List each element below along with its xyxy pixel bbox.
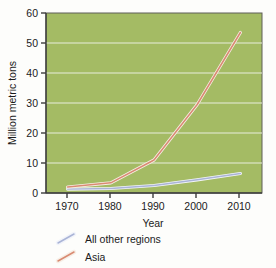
x-tick-label-1990: 1990 [141, 200, 165, 212]
y-tick-label-30: 30 [26, 97, 38, 109]
legend-swatch-asia [58, 252, 74, 261]
legend-entry-all-other-regions[interactable]: All other regions [58, 233, 161, 245]
x-tick-label-2010: 2010 [227, 200, 251, 212]
y-axis-ticks [41, 13, 46, 193]
y-tick-label-60: 60 [26, 7, 38, 19]
x-axis-title: Year [142, 217, 164, 229]
x-tick-label-1980: 1980 [98, 200, 122, 212]
line-chart: 60 50 40 30 20 10 0 1970 1980 1990 2000 … [0, 0, 276, 268]
x-tick-label-1970: 1970 [55, 200, 79, 212]
y-tick-label-20: 20 [26, 127, 38, 139]
legend-label-asia: Asia [85, 251, 106, 263]
legend-entry-asia[interactable]: Asia [58, 251, 106, 263]
legend-swatch-all-other-regions [58, 234, 74, 243]
legend-label-all-other-regions: All other regions [85, 233, 161, 245]
x-tick-label-2000: 2000 [184, 200, 208, 212]
y-tick-label-50: 50 [26, 37, 38, 49]
y-tick-label-0: 0 [32, 187, 38, 199]
chart-figure: 60 50 40 30 20 10 0 1970 1980 1990 2000 … [0, 0, 276, 268]
y-axis-title: Million metric tons [6, 61, 18, 145]
x-axis-ticks [67, 193, 239, 198]
legend: All other regions Asia [58, 233, 161, 263]
y-tick-label-40: 40 [26, 67, 38, 79]
y-tick-label-10: 10 [26, 157, 38, 169]
